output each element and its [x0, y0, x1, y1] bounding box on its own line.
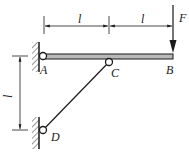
- strut-dc: [43, 62, 109, 130]
- label-point-c: C: [111, 66, 120, 80]
- label-force-f: F: [178, 11, 187, 25]
- label-dim-top-right: l: [141, 12, 145, 26]
- label-point-b: B: [166, 63, 174, 77]
- label-point-d: D: [50, 130, 60, 144]
- wall-support-d: [32, 117, 39, 149]
- pin-d: [40, 127, 47, 134]
- pin-a: [40, 53, 47, 60]
- label-dim-left: l: [1, 94, 15, 98]
- dimension-top: [44, 16, 172, 34]
- beam-diagram: l l F A C B D l: [0, 0, 189, 157]
- label-dim-top-left: l: [78, 12, 82, 26]
- dimension-left: [12, 56, 28, 130]
- pin-c: [106, 59, 113, 66]
- force-arrow-f: [170, 5, 177, 53]
- label-point-a: A: [39, 63, 48, 77]
- wall-support-a: [32, 42, 39, 72]
